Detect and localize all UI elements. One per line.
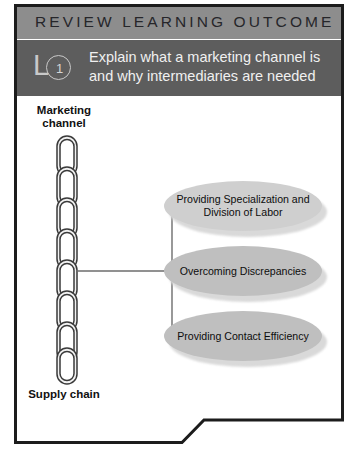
diagram-area: Marketing channel — [17, 96, 341, 441]
learning-objective-text: Explain what a marketing channel is and … — [89, 48, 335, 86]
outcome-label: Overcoming Discrepancies — [164, 246, 322, 296]
outcome-node: Providing Contact Efficiency — [164, 311, 327, 366]
banner-objective-bar: L 1 Explain what a marketing channel is … — [17, 40, 341, 96]
marketing-channel-label: Marketing channel — [21, 104, 107, 130]
outcome-node: Overcoming Discrepancies — [164, 246, 327, 301]
learning-outcome-badge: L 1 — [33, 50, 81, 86]
banner-title-bar: REVIEW LEARNING OUTCOME — [17, 7, 341, 39]
outcome-label: Providing Contact Efficiency — [164, 311, 322, 361]
outcome-node: Providing Specialization and Division of… — [164, 181, 327, 236]
review-learning-outcome-card: REVIEW LEARNING OUTCOME L 1 Explain what… — [14, 4, 344, 444]
banner-title-text: REVIEW LEARNING OUTCOME — [35, 13, 335, 31]
lo-circle-icon: 1 — [46, 55, 71, 80]
lo-number: 1 — [47, 61, 72, 76]
supply-chain-label: Supply chain — [21, 388, 107, 401]
outcome-label: Providing Specialization and Division of… — [164, 181, 322, 231]
